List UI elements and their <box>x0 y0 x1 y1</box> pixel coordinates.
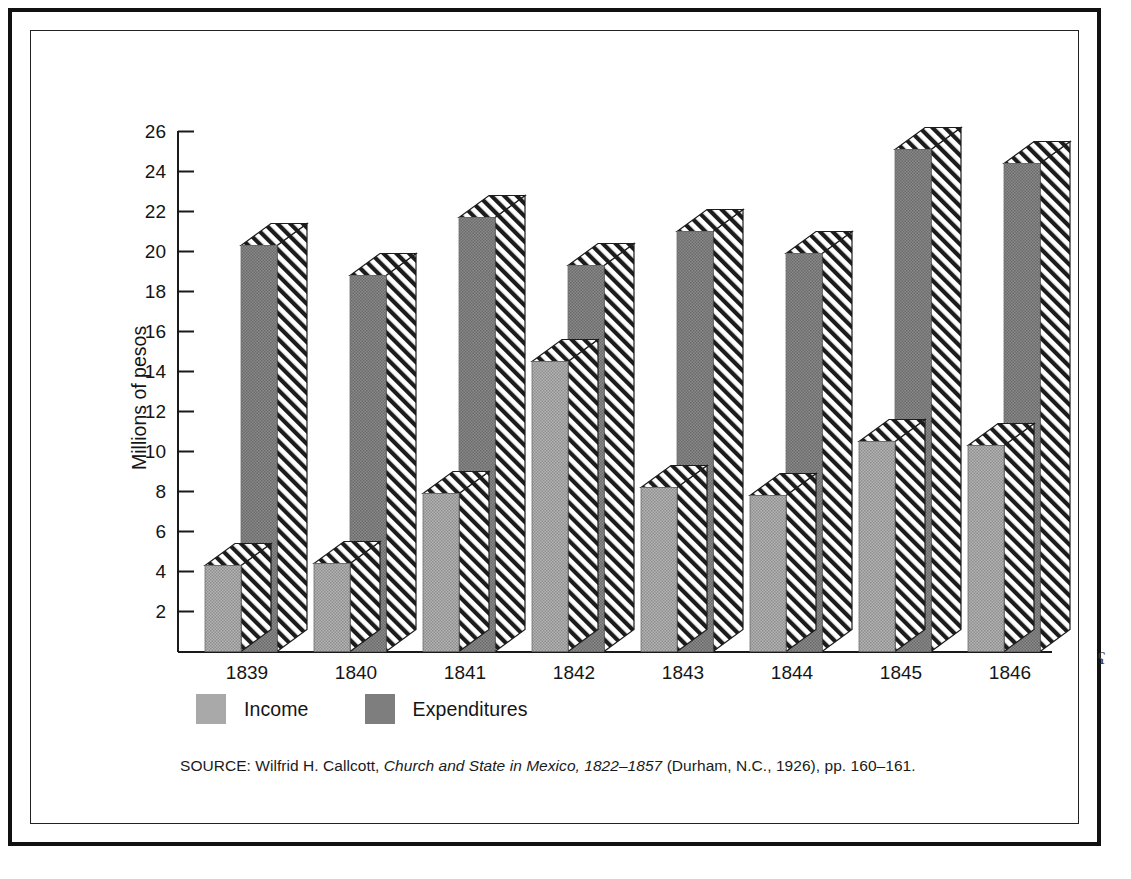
page-background: ʕ <box>0 0 1131 879</box>
bar-side-panel <box>568 340 598 652</box>
y-axis-tick-label: 18 <box>145 281 166 302</box>
y-axis-tick-label: 20 <box>145 241 166 262</box>
chart-legend: IncomeExpenditures <box>196 694 528 724</box>
x-axis-category-label: 1841 <box>444 662 486 683</box>
bar-series-group <box>205 128 1070 652</box>
legend-swatch-expenditures <box>365 694 395 724</box>
bar-side-panel <box>277 224 307 652</box>
x-axis-category-label: 1840 <box>335 662 377 683</box>
chart-plot-svg: 2468101214161820222426 18391840184118421… <box>0 0 1131 879</box>
bar-income-1839 <box>205 544 271 652</box>
bar-side-panel <box>931 128 961 652</box>
x-axis-category-label: 1845 <box>880 662 922 683</box>
bar-front-face <box>314 564 350 652</box>
legend-swatch-income <box>196 694 226 724</box>
y-axis-tick-label: 8 <box>155 481 166 502</box>
bar-side-panel <box>822 232 852 652</box>
y-axis: 2468101214161820222426 <box>145 121 194 652</box>
bar-side-panel <box>713 210 743 652</box>
bar-side-panel <box>895 420 925 652</box>
y-axis-title: Millions of pesos <box>128 326 150 470</box>
bar-front-face <box>205 566 241 652</box>
x-axis-category-labels: 18391840184118421843184418451846 <box>226 662 1031 683</box>
bar-front-face <box>859 442 895 652</box>
bar-front-face <box>968 446 1004 652</box>
bar-side-panel <box>786 474 816 652</box>
x-axis-category-label: 1843 <box>662 662 704 683</box>
y-axis-tick-label: 4 <box>155 561 166 582</box>
y-axis-tick-label: 24 <box>145 161 167 182</box>
legend-entry-income[interactable]: Income <box>196 694 309 724</box>
y-axis-tick-label: 26 <box>145 121 166 142</box>
bar-side-panel <box>604 244 634 652</box>
bar-side-panel <box>677 466 707 652</box>
bar-income-1845 <box>859 420 925 652</box>
y-axis-tick-label: 22 <box>145 201 166 222</box>
bar-income-1841 <box>423 472 489 652</box>
x-axis-category-label: 1846 <box>989 662 1031 683</box>
bar-side-panel <box>495 196 525 652</box>
bar-front-face <box>750 496 786 652</box>
legend-label-expenditures: Expenditures <box>413 698 528 721</box>
bar-side-panel <box>1040 142 1070 652</box>
x-axis-category-label: 1839 <box>226 662 268 683</box>
x-axis-category-label: 1842 <box>553 662 595 683</box>
x-axis: 18391840184118421843184418451846 <box>178 652 1052 683</box>
source-title-italic: Church and State in Mexico, 1822–1857 <box>384 757 662 774</box>
legend-label-income: Income <box>244 698 309 721</box>
bar-side-panel <box>459 472 489 652</box>
x-axis-category-label: 1844 <box>771 662 814 683</box>
y-axis-tick-label: 2 <box>155 601 166 622</box>
bar-income-1844 <box>750 474 816 652</box>
source-note: SOURCE: Wilfrid H. Callcott, Church and … <box>180 757 916 775</box>
bar-side-panel <box>386 254 416 652</box>
bar-front-face <box>532 362 568 652</box>
bar-front-face <box>423 494 459 652</box>
bar-income-1846 <box>968 424 1034 652</box>
legend-entry-expenditures[interactable]: Expenditures <box>365 694 528 724</box>
y-axis-tick-label: 6 <box>155 521 166 542</box>
source-prefix: SOURCE: Wilfrid H. Callcott, <box>180 757 384 774</box>
bar-chart-figure: 2468101214161820222426 18391840184118421… <box>0 0 1131 879</box>
source-suffix: (Durham, N.C., 1926), pp. 160–161. <box>662 757 915 774</box>
bar-front-face <box>641 488 677 652</box>
bar-income-1840 <box>314 542 380 652</box>
bar-side-panel <box>1004 424 1034 652</box>
y-axis-title-text: Millions of pesos <box>128 326 150 470</box>
bar-income-1842 <box>532 340 598 652</box>
y-axis-ticks <box>178 132 194 612</box>
bar-income-1843 <box>641 466 707 652</box>
